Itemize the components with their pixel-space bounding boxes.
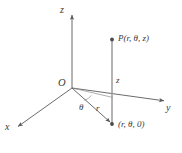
r-segment-line bbox=[72, 88, 110, 122]
r-label: r bbox=[96, 104, 100, 113]
theta-label: θ bbox=[79, 103, 83, 112]
origin-label: O bbox=[58, 78, 66, 89]
cylindrical-coordinates-figure: z y x O θ r z P(r, θ, z) (r, θ, 0) bbox=[0, 0, 182, 153]
x-axis-label: x bbox=[5, 122, 9, 132]
diagram-canvas bbox=[0, 0, 182, 153]
point-projection-marker bbox=[110, 122, 114, 126]
z-height-label: z bbox=[116, 76, 120, 85]
z-axis-label: z bbox=[60, 5, 64, 15]
point-p-marker bbox=[110, 38, 114, 42]
point-p-label: P(r, θ, z) bbox=[118, 34, 149, 43]
point-projection-label: (r, θ, 0) bbox=[118, 120, 144, 129]
x-axis-line bbox=[18, 88, 72, 127]
y-axis-label: y bbox=[166, 103, 170, 113]
y-axis-line bbox=[72, 88, 164, 101]
